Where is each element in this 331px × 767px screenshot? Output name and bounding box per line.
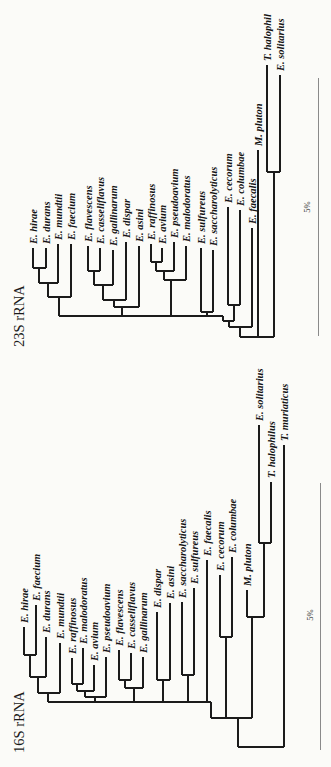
tip-label: T. halophilus (266, 421, 277, 478)
tip-label: E. flavescens (114, 589, 125, 647)
tip-label: E. raffinosus (67, 598, 78, 655)
tip-label: E. cecorum (215, 521, 226, 572)
tip-label: E. gallinarum (108, 185, 119, 247)
tip-label: E. columbae (235, 151, 246, 207)
tip-label: E. saccharolyticus (177, 519, 188, 599)
tip-label: E. sulfureus (196, 191, 207, 245)
tip-label: E. gallinarum (138, 592, 149, 654)
tip-label: E. durans (41, 590, 52, 634)
tip-label: E. hirae (28, 209, 39, 245)
tip-label: M. pluton (253, 103, 264, 147)
tree-16s-rrna: 16S rRNA 5% E. hiraeE. faeciumE. duransE… (11, 368, 320, 753)
tip-label: E. faecalis (202, 511, 213, 558)
tip-label: E. avium (89, 622, 100, 662)
phylogenetic-trees-figure: 23S rRNA 5% E. hiraeE. duransE. mundtiiE… (0, 0, 331, 767)
tip-label: E. cecorum (223, 153, 234, 204)
tip-label: E. durans (41, 201, 52, 245)
tip-label: E. pseudoavium (169, 169, 180, 239)
tip-label: M. pluton (242, 543, 253, 587)
tip-label: T. halophil (262, 14, 273, 61)
tip-label: E. dispar (152, 568, 163, 609)
tip-label: E. asini (165, 566, 176, 600)
tip-label: E. sulfureus (189, 531, 200, 585)
tip-label: E. flavescens (83, 185, 94, 243)
figure-page: 23S rRNA 5% E. hiraeE. duransE. mundtiiE… (0, 0, 331, 767)
tip-label: E. asini (134, 209, 145, 243)
tip-label: E. saccharolyticus (208, 167, 219, 247)
scale-bar-label-23s: 5% (302, 201, 312, 212)
tip-label: E. avium (157, 205, 168, 245)
tree-title-16s: 16S rRNA (11, 691, 27, 753)
tip-label: E. malodoratus (78, 577, 89, 645)
scale-bar-label-16s: 5% (305, 609, 315, 620)
tip-label: E. dispar (121, 198, 132, 239)
tip-label: E. mundtii (55, 593, 66, 640)
tip-label: E. faecalis (247, 179, 258, 226)
tip-label: E. faecium (66, 193, 77, 241)
tip-label: E. pseudoavium (101, 584, 112, 654)
tip-label: T. muriaticus (279, 384, 290, 441)
tip-label: E. casseliflavus (126, 582, 137, 650)
tip-label: E. hirae (19, 588, 30, 624)
tip-label: E. mundtii (53, 194, 64, 241)
tip-label: E. solitarius (254, 368, 265, 422)
tree-23s-rrna: 23S rRNA 5% E. hiraeE. duransE. mundtiiE… (11, 14, 318, 347)
tip-label: E. columbae (227, 498, 238, 554)
tip-label: E. solitarius (275, 18, 286, 72)
tree-title-23s: 23S rRNA (11, 285, 27, 347)
tip-label: E. casseliflavus (95, 177, 106, 245)
tip-label: E. raffinosus (146, 184, 157, 241)
tip-label: E. malodoratus (181, 175, 192, 243)
